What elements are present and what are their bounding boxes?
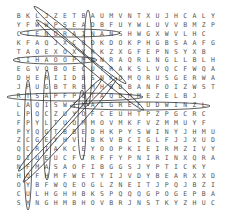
grid-cell[interactable]: J bbox=[125, 199, 134, 208]
grid-cell[interactable]: E bbox=[181, 190, 190, 199]
grid-cell[interactable]: G bbox=[171, 74, 180, 83]
grid-cell[interactable]: H bbox=[125, 30, 134, 39]
grid-cell[interactable]: U bbox=[23, 190, 32, 199]
grid-cell[interactable]: R bbox=[88, 48, 97, 57]
grid-cell[interactable]: A bbox=[134, 83, 143, 92]
grid-cell[interactable]: O bbox=[51, 56, 60, 65]
grid-cell[interactable]: Y bbox=[171, 128, 180, 137]
grid-cell[interactable]: C bbox=[181, 110, 190, 119]
grid-cell[interactable]: P bbox=[70, 56, 79, 65]
grid-cell[interactable]: C bbox=[208, 199, 217, 208]
grid-cell[interactable]: E bbox=[181, 74, 190, 83]
grid-cell[interactable]: D bbox=[70, 74, 79, 83]
grid-cell[interactable]: M bbox=[33, 163, 42, 172]
grid-cell[interactable]: K bbox=[107, 74, 116, 83]
grid-cell[interactable]: B bbox=[199, 48, 208, 57]
grid-cell[interactable]: B bbox=[107, 199, 116, 208]
grid-cell[interactable]: U bbox=[208, 128, 217, 137]
grid-cell[interactable]: A bbox=[42, 163, 51, 172]
grid-cell[interactable]: S bbox=[171, 39, 180, 48]
grid-cell[interactable]: P bbox=[134, 39, 143, 48]
grid-cell[interactable]: O bbox=[97, 145, 106, 154]
grid-cell[interactable]: L bbox=[144, 56, 153, 65]
grid-cell[interactable]: K bbox=[60, 145, 69, 154]
grid-cell[interactable]: J bbox=[181, 181, 190, 190]
grid-cell[interactable]: Z bbox=[107, 48, 116, 57]
grid-cell[interactable]: K bbox=[125, 65, 134, 74]
grid-cell[interactable]: B bbox=[70, 199, 79, 208]
grid-cell[interactable]: Y bbox=[33, 119, 42, 128]
grid-cell[interactable]: G bbox=[23, 65, 32, 74]
grid-cell[interactable]: P bbox=[153, 48, 162, 57]
grid-cell[interactable]: N bbox=[153, 56, 162, 65]
grid-cell[interactable]: Z bbox=[199, 181, 208, 190]
grid-cell[interactable]: W bbox=[162, 30, 171, 39]
grid-cell[interactable]: J bbox=[171, 136, 180, 145]
grid-cell[interactable]: F bbox=[70, 154, 79, 163]
grid-cell[interactable]: Y bbox=[79, 48, 88, 57]
grid-cell[interactable]: F bbox=[199, 119, 208, 128]
grid-cell[interactable]: I bbox=[134, 136, 143, 145]
grid-cell[interactable]: B bbox=[33, 181, 42, 190]
grid-cell[interactable]: S bbox=[97, 190, 106, 199]
grid-cell[interactable]: A bbox=[190, 12, 199, 21]
grid-cell[interactable]: J bbox=[134, 163, 143, 172]
grid-cell[interactable]: W bbox=[134, 30, 143, 39]
grid-cell[interactable]: O bbox=[70, 163, 79, 172]
grid-cell[interactable]: N bbox=[33, 199, 42, 208]
grid-cell[interactable]: C bbox=[14, 190, 23, 199]
grid-cell[interactable]: J bbox=[190, 92, 199, 101]
grid-cell[interactable]: L bbox=[153, 136, 162, 145]
grid-cell[interactable]: T bbox=[88, 172, 97, 181]
grid-cell[interactable]: B bbox=[181, 21, 190, 30]
grid-cell[interactable]: Y bbox=[208, 12, 217, 21]
grid-cell[interactable]: N bbox=[162, 48, 171, 57]
grid-cell[interactable]: L bbox=[181, 30, 190, 39]
grid-cell[interactable]: Y bbox=[208, 145, 217, 154]
grid-cell[interactable]: H bbox=[190, 30, 199, 39]
grid-cell[interactable]: L bbox=[144, 65, 153, 74]
grid-cell[interactable]: A bbox=[60, 163, 69, 172]
grid-cell[interactable]: S bbox=[125, 163, 134, 172]
grid-cell[interactable]: E bbox=[107, 110, 116, 119]
grid-cell[interactable]: I bbox=[23, 56, 32, 65]
grid-cell[interactable]: C bbox=[14, 30, 23, 39]
grid-cell[interactable]: H bbox=[125, 110, 134, 119]
grid-cell[interactable]: F bbox=[162, 136, 171, 145]
grid-cell[interactable]: M bbox=[79, 119, 88, 128]
grid-cell[interactable]: S bbox=[116, 30, 125, 39]
grid-cell[interactable]: Z bbox=[153, 110, 162, 119]
grid-cell[interactable]: O bbox=[79, 92, 88, 101]
grid-cell[interactable]: Q bbox=[33, 128, 42, 137]
grid-cell[interactable]: K bbox=[125, 39, 134, 48]
grid-cell[interactable]: A bbox=[70, 30, 79, 39]
grid-cell[interactable]: M bbox=[60, 199, 69, 208]
grid-cell[interactable]: F bbox=[97, 154, 106, 163]
grid-cell[interactable]: P bbox=[51, 92, 60, 101]
grid-cell[interactable]: E bbox=[162, 172, 171, 181]
grid-cell[interactable]: N bbox=[88, 30, 97, 39]
grid-cell[interactable]: T bbox=[70, 12, 79, 21]
grid-cell[interactable]: T bbox=[134, 110, 143, 119]
grid-cell[interactable]: D bbox=[88, 128, 97, 137]
grid-cell[interactable]: Q bbox=[14, 145, 23, 154]
grid-cell[interactable]: P bbox=[116, 128, 125, 137]
grid-cell[interactable]: D bbox=[116, 83, 125, 92]
grid-cell[interactable]: V bbox=[107, 136, 116, 145]
grid-cell[interactable]: C bbox=[23, 145, 32, 154]
grid-cell[interactable]: D bbox=[134, 172, 143, 181]
grid-cell[interactable]: S bbox=[88, 74, 97, 83]
grid-cell[interactable]: I bbox=[134, 181, 143, 190]
grid-cell[interactable]: B bbox=[125, 83, 134, 92]
grid-cell[interactable]: P bbox=[70, 92, 79, 101]
grid-cell[interactable]: I bbox=[171, 83, 180, 92]
grid-cell[interactable]: M bbox=[162, 119, 171, 128]
grid-cell[interactable]: P bbox=[51, 21, 60, 30]
grid-cell[interactable]: C bbox=[60, 154, 69, 163]
grid-cell[interactable]: X bbox=[181, 154, 190, 163]
grid-cell[interactable]: Y bbox=[14, 21, 23, 30]
grid-cell[interactable]: J bbox=[51, 39, 60, 48]
grid-cell[interactable]: N bbox=[14, 163, 23, 172]
grid-cell[interactable]: Y bbox=[70, 110, 79, 119]
grid-cell[interactable]: P bbox=[190, 190, 199, 199]
